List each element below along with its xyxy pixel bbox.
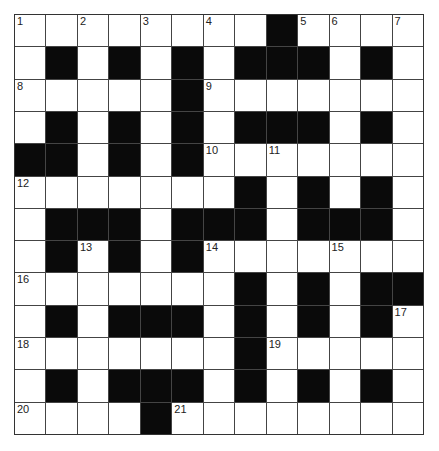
crossword-cell[interactable] xyxy=(78,112,108,143)
crossword-cell[interactable] xyxy=(267,306,297,337)
crossword-cell[interactable] xyxy=(141,209,171,240)
crossword-cell[interactable] xyxy=(15,241,45,272)
crossword-cell[interactable] xyxy=(393,80,423,111)
crossword-cell[interactable] xyxy=(204,338,234,369)
crossword-cell[interactable] xyxy=(141,112,171,143)
crossword-cell[interactable] xyxy=(330,177,360,208)
crossword-cell[interactable] xyxy=(330,144,360,175)
crossword-cell[interactable] xyxy=(141,80,171,111)
crossword-cell[interactable] xyxy=(393,47,423,78)
crossword-cell[interactable] xyxy=(267,80,297,111)
crossword-cell[interactable]: 15 xyxy=(330,241,360,272)
crossword-cell[interactable] xyxy=(78,177,108,208)
crossword-cell[interactable] xyxy=(330,112,360,143)
crossword-cell[interactable] xyxy=(267,241,297,272)
crossword-cell[interactable] xyxy=(267,177,297,208)
crossword-cell[interactable] xyxy=(172,15,202,46)
crossword-cell[interactable] xyxy=(235,403,265,434)
crossword-cell[interactable] xyxy=(267,370,297,401)
crossword-cell[interactable] xyxy=(109,403,139,434)
crossword-cell[interactable] xyxy=(330,370,360,401)
crossword-cell[interactable] xyxy=(46,403,76,434)
crossword-cell[interactable] xyxy=(235,80,265,111)
crossword-cell[interactable] xyxy=(109,338,139,369)
crossword-cell[interactable] xyxy=(204,370,234,401)
crossword-cell[interactable] xyxy=(78,47,108,78)
crossword-cell[interactable] xyxy=(141,144,171,175)
crossword-cell[interactable] xyxy=(141,273,171,304)
crossword-cell[interactable] xyxy=(298,403,328,434)
crossword-cell[interactable]: 17 xyxy=(393,306,423,337)
crossword-cell[interactable] xyxy=(330,306,360,337)
crossword-cell[interactable] xyxy=(109,15,139,46)
crossword-cell[interactable] xyxy=(235,241,265,272)
crossword-cell[interactable]: 16 xyxy=(15,273,45,304)
crossword-cell[interactable] xyxy=(393,241,423,272)
crossword-cell[interactable] xyxy=(172,177,202,208)
crossword-cell[interactable]: 21 xyxy=(172,403,202,434)
crossword-cell[interactable]: 12 xyxy=(15,177,45,208)
crossword-cell[interactable] xyxy=(361,338,391,369)
crossword-cell[interactable] xyxy=(330,273,360,304)
crossword-cell[interactable] xyxy=(393,112,423,143)
crossword-cell[interactable] xyxy=(235,15,265,46)
crossword-cell[interactable] xyxy=(172,273,202,304)
crossword-cell[interactable] xyxy=(204,112,234,143)
crossword-cell[interactable]: 2 xyxy=(78,15,108,46)
crossword-cell[interactable] xyxy=(393,209,423,240)
crossword-cell[interactable] xyxy=(393,403,423,434)
crossword-cell[interactable] xyxy=(78,306,108,337)
crossword-cell[interactable] xyxy=(235,144,265,175)
crossword-cell[interactable]: 3 xyxy=(141,15,171,46)
crossword-cell[interactable] xyxy=(78,338,108,369)
crossword-cell[interactable] xyxy=(141,241,171,272)
crossword-cell[interactable]: 6 xyxy=(330,15,360,46)
crossword-cell[interactable] xyxy=(361,80,391,111)
crossword-cell[interactable] xyxy=(361,144,391,175)
crossword-cell[interactable] xyxy=(15,209,45,240)
crossword-cell[interactable] xyxy=(361,241,391,272)
crossword-cell[interactable] xyxy=(78,80,108,111)
crossword-cell[interactable] xyxy=(15,47,45,78)
crossword-cell[interactable] xyxy=(267,273,297,304)
crossword-cell[interactable]: 18 xyxy=(15,338,45,369)
crossword-cell[interactable] xyxy=(46,15,76,46)
crossword-cell[interactable]: 11 xyxy=(267,144,297,175)
crossword-cell[interactable] xyxy=(298,338,328,369)
crossword-cell[interactable] xyxy=(109,80,139,111)
crossword-cell[interactable] xyxy=(393,338,423,369)
crossword-cell[interactable] xyxy=(15,370,45,401)
crossword-cell[interactable] xyxy=(298,241,328,272)
crossword-cell[interactable]: 5 xyxy=(298,15,328,46)
crossword-cell[interactable]: 19 xyxy=(267,338,297,369)
crossword-cell[interactable] xyxy=(204,403,234,434)
crossword-cell[interactable] xyxy=(330,338,360,369)
crossword-cell[interactable] xyxy=(78,403,108,434)
crossword-cell[interactable] xyxy=(109,273,139,304)
crossword-cell[interactable]: 8 xyxy=(15,80,45,111)
crossword-cell[interactable] xyxy=(204,273,234,304)
crossword-cell[interactable] xyxy=(46,177,76,208)
crossword-cell[interactable] xyxy=(78,370,108,401)
crossword-cell[interactable] xyxy=(141,338,171,369)
crossword-cell[interactable] xyxy=(15,306,45,337)
crossword-cell[interactable] xyxy=(46,273,76,304)
crossword-cell[interactable] xyxy=(141,47,171,78)
crossword-cell[interactable] xyxy=(393,370,423,401)
crossword-cell[interactable] xyxy=(361,15,391,46)
crossword-cell[interactable] xyxy=(267,209,297,240)
crossword-cell[interactable] xyxy=(298,144,328,175)
crossword-cell[interactable] xyxy=(204,177,234,208)
crossword-cell[interactable]: 4 xyxy=(204,15,234,46)
crossword-cell[interactable] xyxy=(15,112,45,143)
crossword-cell[interactable]: 7 xyxy=(393,15,423,46)
crossword-cell[interactable] xyxy=(330,80,360,111)
crossword-cell[interactable] xyxy=(78,144,108,175)
crossword-cell[interactable] xyxy=(46,80,76,111)
crossword-cell[interactable]: 9 xyxy=(204,80,234,111)
crossword-cell[interactable] xyxy=(298,80,328,111)
crossword-cell[interactable] xyxy=(330,403,360,434)
crossword-cell[interactable]: 13 xyxy=(78,241,108,272)
crossword-cell[interactable] xyxy=(330,47,360,78)
crossword-cell[interactable] xyxy=(172,338,202,369)
